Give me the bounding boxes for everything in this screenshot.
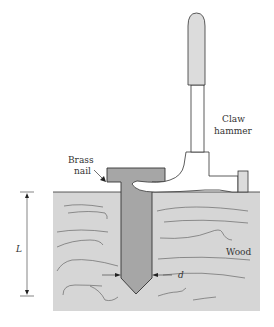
arrow-down-icon [25, 290, 29, 295]
hammer-face [238, 171, 248, 192]
claw-hammer-label-line2: hammer [214, 126, 253, 136]
hammer-grip [188, 13, 205, 85]
hammer-shaft [191, 85, 204, 152]
brass-nail-label-line1: Brass [68, 155, 94, 165]
brass-nail-pointer [94, 170, 103, 179]
brass-nail-label-line2: nail [74, 166, 91, 176]
length-label: L [15, 244, 22, 254]
claw-hammer-label-line1: Claw [222, 114, 245, 124]
length-dimension [20, 192, 34, 296]
diameter-label: d [178, 270, 184, 280]
wood-label: Wood [226, 247, 251, 257]
arrow-up-icon [25, 193, 29, 198]
nail-pull-diagram: Brass nail Claw hammer Wood L d [0, 0, 274, 327]
